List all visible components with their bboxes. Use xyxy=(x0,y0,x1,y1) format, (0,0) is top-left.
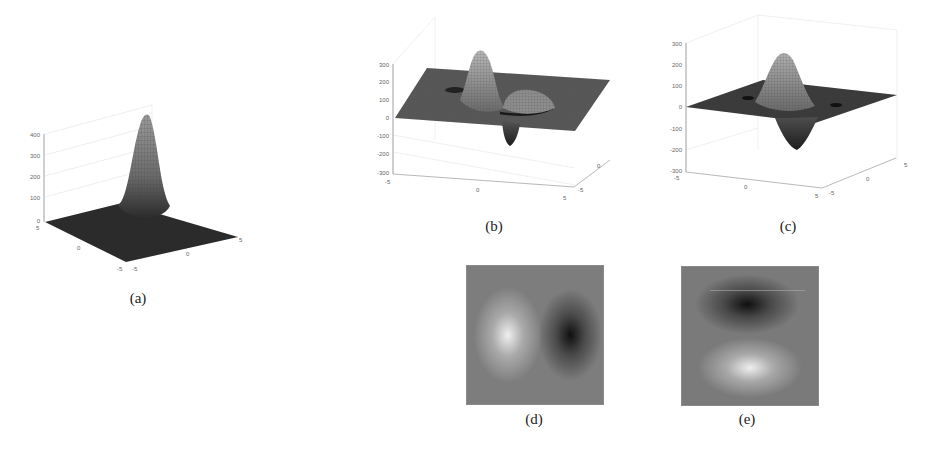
x-tick-neg5: -5 xyxy=(674,175,680,181)
z-tick-200: 200 xyxy=(672,62,683,68)
z-tick-neg200: -200 xyxy=(670,147,683,153)
caption-c: (c) xyxy=(768,218,808,235)
x-tick-0: 0 xyxy=(744,184,748,190)
heatmap-d xyxy=(466,265,604,405)
z-tick-neg300: -300 xyxy=(670,168,683,174)
z-tick-300: 300 xyxy=(672,41,683,47)
z-tick-0: 0 xyxy=(679,104,683,110)
z-tick-neg100: -100 xyxy=(670,126,683,132)
scan-line-artifact xyxy=(710,290,805,291)
x-tick-5: 5 xyxy=(815,193,819,199)
caption-e: (e) xyxy=(727,411,767,428)
y-tick-0: 0 xyxy=(866,176,870,182)
z-tick-100: 100 xyxy=(672,83,683,89)
y-tick-5: 5 xyxy=(904,162,908,168)
caption-d: (d) xyxy=(514,411,554,428)
heatmap-e xyxy=(681,266,819,406)
y-tick-neg5: -5 xyxy=(829,190,835,196)
